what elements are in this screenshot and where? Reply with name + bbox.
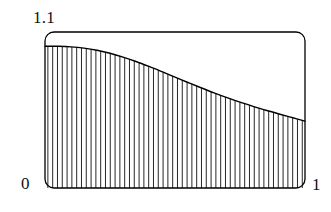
plot-area: [0, 0, 331, 212]
figure-root: 1.1 0 1: [0, 0, 331, 212]
y-axis-max-label: 1.1: [33, 9, 55, 26]
x-axis-min-label: 0: [21, 175, 30, 192]
x-axis-max-label: 1: [312, 176, 321, 193]
data-curve: [45, 46, 305, 121]
